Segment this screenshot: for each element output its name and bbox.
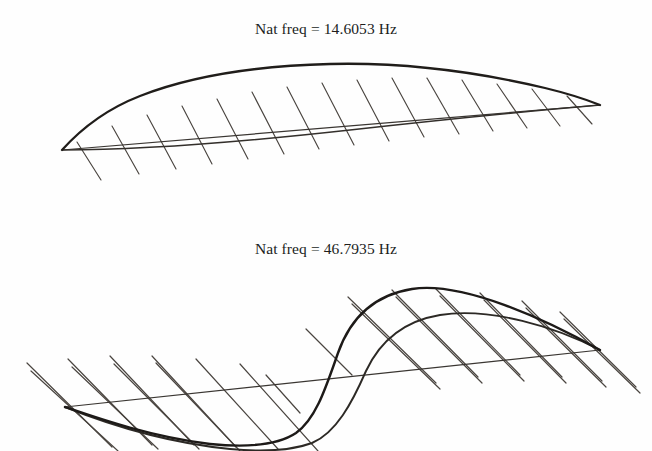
mode-2-upper-edge [65,288,600,446]
mode-1-upper-edge [62,64,600,150]
mode-1-rib [357,80,389,141]
mode-1-rib [462,80,493,131]
mode-2-rib [196,359,278,449]
mode-1-plot [0,46,652,216]
mode-1-rib [427,78,459,134]
mode-1-rib [112,126,139,174]
mode-shape-figure: Nat freq = 14.6053 Hz [0,0,652,451]
mode-2-chord-line [65,350,600,407]
mode-2-frequency-label: Nat freq = 46.7935 Hz [0,240,652,258]
mode-2-rib [480,293,562,377]
mode-2-rib [240,364,318,451]
mode-2-rib [352,304,440,389]
mode-2-plot [0,267,652,451]
mode-1-rib [287,87,319,149]
mode-1-rib [322,83,354,145]
mode-shape-panel-1: Nat freq = 14.6053 Hz [0,0,652,225]
mode-2-rib [348,297,436,383]
mode-1-rib [217,99,248,159]
mode-1-rib [182,106,212,164]
mode-2-rib [266,375,300,413]
mode-2-rib [436,289,520,375]
mode-1-rib [497,84,527,128]
mode-2-rib [72,367,158,449]
mode-1-rib [532,89,560,126]
mode-1-rib [392,78,424,137]
mode-1-rib [252,92,284,154]
mode-shape-panel-2: Nat freq = 46.7935 Hz [0,225,652,451]
mode-1-rib-group [77,78,592,180]
mode-1-frequency-label: Nat freq = 14.6053 Hz [0,20,652,38]
